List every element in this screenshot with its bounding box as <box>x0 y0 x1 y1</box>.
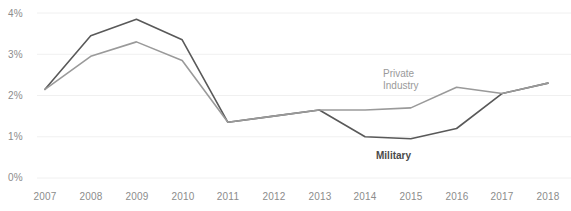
x-axis-tick-2008: 2008 <box>79 191 102 202</box>
series-line-military <box>45 19 548 139</box>
y-axis-tick-1pct: 1% <box>8 131 23 142</box>
y-axis-tick-0pct: 0% <box>8 172 23 183</box>
series-label-private-industry-line2: Industry <box>383 80 419 92</box>
x-axis-tick-2012: 2012 <box>262 191 285 202</box>
x-axis-tick-2016: 2016 <box>445 191 468 202</box>
x-axis-tick-2013: 2013 <box>308 191 331 202</box>
y-axis-tick-4pct: 4% <box>8 8 23 19</box>
series-label-private-industry: Private Industry <box>383 68 419 92</box>
y-axis-tick-3pct: 3% <box>8 49 23 60</box>
x-axis-tick-2015: 2015 <box>399 191 422 202</box>
x-axis-tick-2018: 2018 <box>536 191 559 202</box>
x-axis-tick-2011: 2011 <box>217 191 239 202</box>
x-axis-tick-2017: 2017 <box>490 191 513 202</box>
x-axis-tick-2010: 2010 <box>171 191 194 202</box>
series-label-private-industry-line1: Private <box>383 68 419 80</box>
chart-plot-area <box>0 0 571 211</box>
series-label-military: Military <box>376 150 411 162</box>
series-lines <box>45 19 548 139</box>
x-axis-tick-2009: 2009 <box>125 191 148 202</box>
y-axis-tick-2pct: 2% <box>8 90 23 101</box>
gridlines <box>37 13 571 178</box>
x-axis-tick-2014: 2014 <box>353 191 376 202</box>
line-chart: 4%3%2%1%0% 20072008200920102011201220132… <box>0 0 571 211</box>
x-axis-tick-2007: 2007 <box>33 191 56 202</box>
